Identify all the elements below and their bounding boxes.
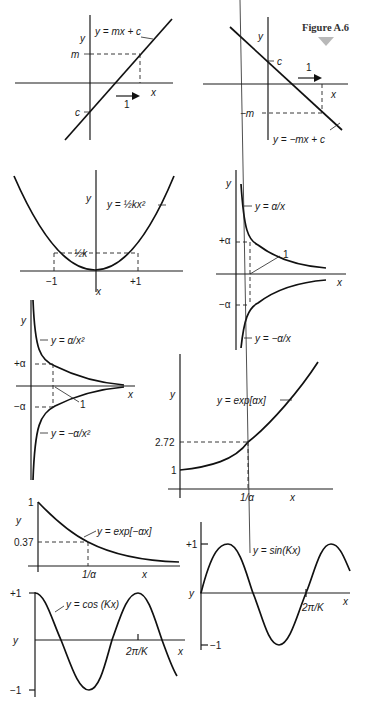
equation-label: y = sin(Kx) [252,545,301,556]
svg-text:−1: −1 [46,276,58,287]
equation-label: y = ½kx² [106,199,146,210]
svg-text:1: 1 [124,99,130,110]
svg-text:x: x [150,87,157,98]
svg-text:y: y [188,588,195,599]
svg-text:x: x [342,596,349,607]
panel-reciprocal: y y = α/x +α 1 x −α y = −α/x [216,170,346,350]
svg-text:2π/K: 2π/K [301,602,325,613]
svg-text:−α: −α [219,299,231,310]
svg-text:y: y [20,315,27,326]
panel-cosine: +1 y = cos (Kx) y 2π/K x −1 [10,588,185,697]
figure-marker-triangle [318,37,334,46]
equation-label: y = mx + c [94,26,141,37]
sine-curve [201,544,350,645]
panel-parabola: y y = ½kx² ½k −1 +1 x [14,170,183,297]
equation-label-positive: y = α/x [254,201,286,212]
svg-text:0.37: 0.37 [14,537,34,548]
svg-text:1: 1 [28,497,34,508]
svg-text:1: 1 [80,399,86,410]
parabola-curve [14,176,174,270]
svg-text:1: 1 [306,62,312,73]
svg-text:1: 1 [283,249,289,260]
svg-text:1/α: 1/α [240,492,254,503]
equation-label-positive: y = α/x² [50,335,85,346]
svg-text:−1: −1 [10,685,22,696]
panel-inverse-square: y y = α/x² +α x −α 1 y = −α/x² [14,300,135,480]
svg-text:−1: −1 [210,640,222,651]
svg-text:x: x [289,492,296,503]
svg-text:c: c [277,56,282,67]
svg-text:y: y [85,193,92,204]
equation-label: y = exp[αx] [216,395,266,406]
svg-text:+α: +α [219,235,231,246]
figure-title: Figure A.6 [302,22,349,33]
svg-text:c: c [75,107,80,118]
svg-text:y: y [225,178,232,189]
svg-text:1: 1 [171,465,177,476]
panel-linear-negative: y c 1 x −m y = −mx + c [203,17,348,145]
svg-text:½k: ½k [74,248,88,259]
svg-text:x: x [336,277,343,288]
panel-exp-decay: 1 y y = exp[−αx] 0.37 1/α x [14,497,180,580]
equation-label-negative: y = −α/x² [50,428,91,439]
svg-text:+1: +1 [186,539,198,550]
svg-text:2.72: 2.72 [155,437,175,448]
svg-text:x: x [330,89,337,100]
equation-label: y = −mx + c [272,134,325,145]
panel-linear-positive: y y = mx + c m c 1 x [15,15,173,140]
equation-label: y = exp[−αx] [96,526,152,537]
svg-text:x: x [95,286,102,297]
svg-text:y: y [15,515,22,526]
svg-text:1/α: 1/α [82,569,96,580]
svg-text:2π/K: 2π/K [125,646,149,657]
svg-text:y: y [257,31,264,42]
exp-growth-curve [180,362,318,470]
svg-text:x: x [127,389,134,400]
equation-label: y = cos (Kx) [65,599,119,610]
figure-canvas: Figure A.6 y y = mx + c m c 1 x y c 1 x … [0,0,369,703]
svg-text:y: y [12,635,19,646]
svg-text:y: y [169,389,176,400]
svg-text:x: x [177,646,184,657]
svg-text:x: x [141,569,148,580]
svg-text:y: y [79,33,86,44]
svg-text:−α: −α [14,401,26,412]
svg-text:m: m [71,49,79,60]
svg-text:+1: +1 [130,276,142,287]
equation-label-negative: y = −α/x [254,333,292,344]
panel-exp-growth: y y = exp[αx] 2.72 1 1/α x [155,354,333,503]
svg-text:+1: +1 [10,588,22,599]
svg-text:+α: +α [14,358,26,369]
